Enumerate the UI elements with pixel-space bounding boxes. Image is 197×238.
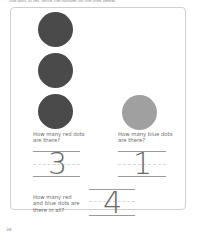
instruction-text: Use dots to tell. Write the number on th…	[9, 0, 116, 3]
question-red-dots: How many red dots are there?	[33, 131, 85, 144]
question-text: are there?	[33, 137, 85, 143]
red-dot	[38, 12, 73, 47]
question-text: and blue dots are	[33, 200, 79, 206]
question-text: there in all?	[33, 207, 79, 213]
worksheet-card	[10, 7, 186, 210]
page-number: 34	[6, 227, 12, 232]
answer-blue-count[interactable]: 1	[133, 149, 152, 179]
question-total-dots: How many red and blue dots are there in …	[33, 194, 79, 213]
answer-total-count[interactable]: 4	[103, 188, 122, 218]
red-dot	[38, 53, 73, 88]
blue-dot	[122, 95, 157, 130]
red-dot	[38, 94, 73, 129]
question-text: are there?	[118, 137, 172, 143]
question-blue-dots: How many blue dots are there?	[118, 131, 172, 144]
answer-red-count[interactable]: 3	[48, 149, 67, 179]
